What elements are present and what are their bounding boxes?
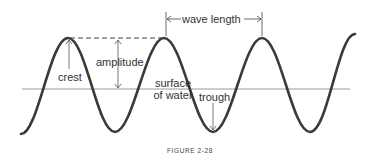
wave-length-label: wave length — [182, 13, 241, 25]
trough-arrow — [210, 103, 216, 130]
figure-caption: FIGURE 2-28 — [167, 147, 213, 154]
amplitude-label: amplitude — [96, 56, 144, 68]
surface-of-water-label: surface of water — [148, 77, 198, 101]
crest-arrow — [66, 40, 72, 69]
trough-label: trough — [199, 91, 230, 103]
crest-label: crest — [58, 71, 82, 83]
surface-label-line2: of water — [148, 89, 198, 101]
surface-label-line1: surface — [148, 77, 198, 89]
